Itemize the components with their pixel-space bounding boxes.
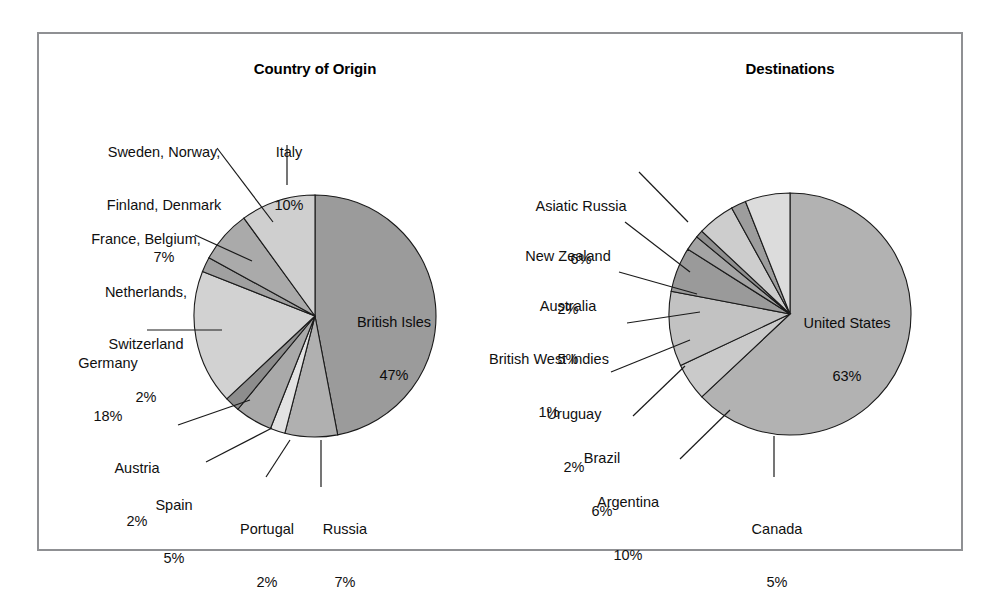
right-slice-label-united-states-name: United States [803,315,890,333]
right-callout-canada: Canada 5% [752,486,803,591]
left-callout-italy-value: 10% [274,197,303,215]
left-callout-portugal-line1: Portugal [240,521,294,539]
left-callout-austria-value: 2% [114,513,159,531]
right-callout-australia-line1: Australia [540,298,596,316]
left-callout-spain: Spain 5% [155,462,192,591]
left-callout-russia-line1: Russia [323,521,367,539]
left-callout-france-line1: France, Belgium, [91,231,201,249]
right-callout-argentina-line1: Argentina [597,494,659,512]
left-slice-label-british-isles-value: 47% [357,367,431,385]
right-callout-argentina: Argentina 10% [597,459,659,591]
right-callout-canada-value: 5% [752,574,803,591]
left-callout-germany-line1: Germany [78,355,138,373]
left-slice-label-british-isles-name: British Isles [357,314,431,332]
leader-line [639,172,688,222]
left-callout-germany-value: 18% [78,408,138,426]
leader-line [217,148,273,222]
left-slice-label-british-isles: British Isles 47% [357,279,431,419]
leader-line [633,366,685,416]
left-callout-italy-line1: Italy [274,144,303,162]
left-callout-france-line2: Netherlands, [91,284,201,302]
left-callout-italy: Italy 10% [274,109,303,249]
leader-line [206,428,272,462]
right-slice-label-united-states: United States 63% [803,280,890,420]
leader-line [625,222,690,272]
left-callout-portugal-value: 2% [240,574,294,591]
left-callout-austria-line1: Austria [114,460,159,478]
leader-line [680,410,730,459]
left-callout-sweden-line1: Sweden, Norway, [107,144,221,162]
left-callout-portugal: Portugal 2% [240,486,294,591]
left-callout-russia: Russia 7% [323,486,367,591]
right-callout-canada-line1: Canada [752,521,803,539]
right-callout-british-west-indies-line1: British West Indies [489,351,609,369]
left-callout-spain-value: 5% [155,550,192,568]
left-callout-spain-line1: Spain [155,497,192,515]
left-callout-russia-value: 7% [323,574,367,591]
leader-line [266,440,290,477]
right-callout-argentina-value: 10% [597,547,659,565]
right-slice-label-united-states-value: 63% [803,368,890,386]
left-callout-austria: Austria 2% [114,425,159,565]
